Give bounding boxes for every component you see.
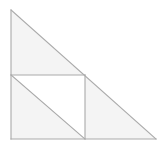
geometry-figure	[0, 0, 164, 152]
geometry-canvas	[0, 0, 164, 152]
